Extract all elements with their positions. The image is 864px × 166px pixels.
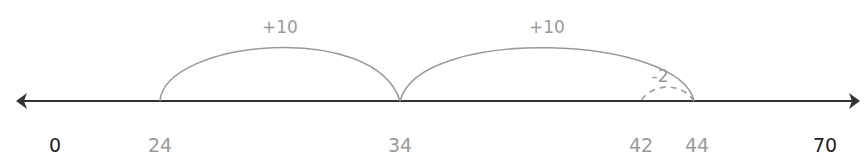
tick-label-0: 0 (49, 134, 61, 156)
number-line-diagram: +10 +10 -2 0 24 34 42 44 70 (0, 0, 864, 166)
jump-arc-3-dashed (641, 87, 694, 101)
tick-label-44: 44 (685, 134, 709, 156)
jump-arc-1 (160, 47, 400, 101)
jump-label-3: -2 (652, 66, 669, 86)
tick-label-34: 34 (388, 134, 412, 156)
jump-label-2: +10 (529, 17, 565, 37)
jump-arc-2 (400, 48, 694, 101)
tick-label-70: 70 (813, 134, 837, 156)
tick-label-24: 24 (148, 134, 172, 156)
jump-label-1: +10 (262, 17, 298, 37)
tick-label-42: 42 (629, 134, 653, 156)
